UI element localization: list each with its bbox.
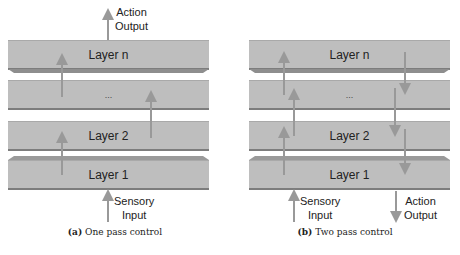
label-line: Input [114, 208, 154, 222]
caption-text: One pass control [85, 227, 162, 237]
sensory-input-label: Sensory Input [114, 194, 154, 222]
panel-two-pass-control: Layer n ... Layer 2 Layer 1 Sensory Inpu… [230, 0, 460, 255]
label-line: Output [115, 19, 148, 33]
label-line: Sensory [300, 194, 340, 208]
caption-tag: (a) [68, 227, 82, 237]
label-line: Action [404, 194, 437, 208]
caption-tag: (b) [297, 227, 312, 237]
label-line: Output [404, 208, 437, 222]
label-line: Sensory [114, 194, 154, 208]
label-line: Action [115, 5, 148, 19]
caption-b: (b) Two pass control [230, 227, 460, 237]
caption-text: Two pass control [315, 227, 392, 237]
label-line: Input [300, 208, 340, 222]
action-output-label: Action Output [115, 5, 148, 33]
panel-one-pass-control: Layer n ... Layer 2 Layer 1 Action Outpu… [0, 0, 230, 255]
caption-a: (a) One pass control [0, 227, 230, 237]
sensory-input-label: Sensory Input [300, 194, 340, 222]
action-output-label: Action Output [404, 194, 437, 222]
